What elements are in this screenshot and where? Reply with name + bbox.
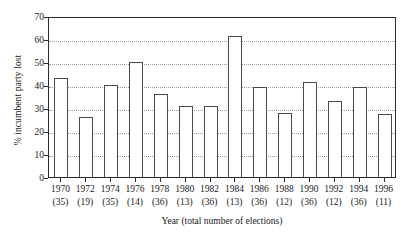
x-axis-tick-mark xyxy=(234,178,235,182)
bar xyxy=(253,87,267,177)
x-axis-tick-mark xyxy=(259,178,260,182)
bar xyxy=(353,87,367,177)
bar xyxy=(328,101,342,177)
x-axis-tick-mark xyxy=(210,178,211,182)
y-axis-tick-labels: 010203040506070 xyxy=(20,17,44,178)
bar xyxy=(179,106,193,177)
y-axis-tick-label: 30 xyxy=(22,103,44,115)
bar xyxy=(204,106,218,177)
bar xyxy=(378,114,392,177)
bar xyxy=(228,36,242,177)
y-axis-tick-label: 20 xyxy=(22,126,44,138)
y-axis-tick-label: 50 xyxy=(22,57,44,69)
x-axis-tick-mark xyxy=(110,178,111,182)
gridline xyxy=(49,64,395,65)
x-axis-count-label: (11) xyxy=(364,196,404,209)
y-axis-tick-label: 70 xyxy=(22,11,44,23)
gridline xyxy=(49,41,395,42)
x-axis-title: Year (total number of elections) xyxy=(48,214,396,228)
x-axis-year-label: 1996 xyxy=(364,183,404,196)
x-axis-tick-mark xyxy=(160,178,161,182)
x-axis-tick-mark xyxy=(334,178,335,182)
x-axis-tick-mark xyxy=(135,178,136,182)
bar xyxy=(303,82,317,177)
x-axis-tick-mark xyxy=(309,178,310,182)
plot-area xyxy=(48,17,396,178)
x-axis-tick-mark xyxy=(85,178,86,182)
x-axis-tick-mark xyxy=(60,178,61,182)
y-axis-tick-label: 60 xyxy=(22,34,44,46)
x-axis-tick-labels: 1970(35)1972(19)1974(35)1976(14)1978(36)… xyxy=(48,183,396,215)
x-axis-label-group: 1996(11) xyxy=(364,183,404,209)
bar xyxy=(54,78,68,177)
bar xyxy=(278,113,292,177)
x-axis-tick-mark xyxy=(284,178,285,182)
gridline xyxy=(49,156,395,157)
bar-chart: % incumbent party lost 010203040506070 1… xyxy=(0,0,415,235)
x-axis-tick-mark xyxy=(384,178,385,182)
y-axis-tick-label: 40 xyxy=(22,80,44,92)
gridline xyxy=(49,110,395,111)
bar xyxy=(79,117,93,177)
bar xyxy=(129,62,143,177)
bar xyxy=(154,94,168,177)
y-axis-tick-label: 10 xyxy=(22,149,44,161)
x-axis-tick-mark xyxy=(185,178,186,182)
gridline xyxy=(49,133,395,134)
gridline xyxy=(49,87,395,88)
plot-inner xyxy=(49,18,395,177)
x-axis-tick-mark xyxy=(359,178,360,182)
bar xyxy=(104,85,118,177)
